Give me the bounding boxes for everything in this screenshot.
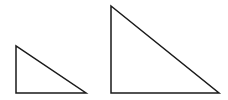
small-right-triangle <box>16 46 86 93</box>
triangles-diagram <box>0 0 228 100</box>
large-right-triangle <box>111 6 219 93</box>
